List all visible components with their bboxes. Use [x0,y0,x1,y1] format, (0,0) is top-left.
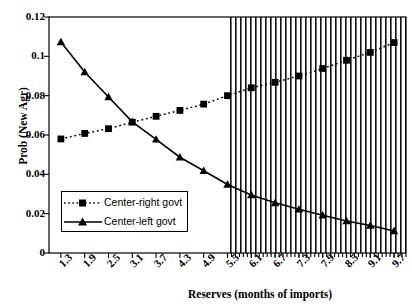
legend-label-center-right: Center-right govt [104,197,182,208]
x-tick-label: 6.7 [264,245,294,275]
x-tick-label: 3.1 [122,245,152,275]
x-tick-label: 9.1 [360,245,390,275]
x-tick-label: 7.3 [288,245,318,275]
x-tick-label: 9.7 [383,245,412,275]
x-tick-label: 6.1 [241,245,271,275]
x-tick-label: 7.9 [312,245,342,275]
x-tick-label: 2.5 [98,245,128,275]
x-tick-label: 5.5 [217,245,247,275]
x-tick-label: 1.3 [50,245,80,275]
x-axis-title: Reserves (months of imports) [120,288,400,300]
solid-line-triangle-marker-icon [62,214,104,230]
chart-legend: Center-right govt Center-left govt [61,191,188,232]
x-axis-tick-labels: 1.31.92.53.13.74.34.95.56.16.77.37.98.59… [0,0,412,306]
x-tick-label: 4.9 [193,245,223,275]
x-tick-label: 1.9 [74,245,104,275]
legend-label-center-left: Center-left govt [104,216,176,227]
legend-item-center-left: Center-left govt [62,212,189,231]
x-tick-label: 4.3 [169,245,199,275]
x-tick-label: 3.7 [145,245,175,275]
dotted-line-square-marker-icon [62,195,104,211]
x-tick-label: 8.5 [336,245,366,275]
legend-item-center-right: Center-right govt [62,193,189,212]
chart-container: 00.020.040.060.080.10.12 Prob (New Agr) … [0,0,412,306]
